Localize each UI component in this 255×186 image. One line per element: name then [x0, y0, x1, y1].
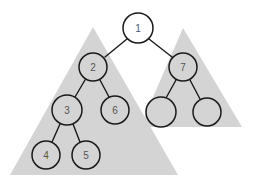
edge-n1-n7 [149, 39, 172, 57]
node-label: 7 [180, 62, 186, 73]
edge-n1-n2 [105, 39, 127, 57]
tree-node-1: 1 [123, 13, 153, 43]
node-label: 1 [135, 23, 141, 34]
node-label: 5 [83, 150, 89, 161]
tree-node-6: 6 [101, 96, 129, 124]
tree-node-4: 4 [32, 141, 60, 169]
tree-node-n7b [193, 98, 221, 126]
node-label: 4 [43, 150, 49, 161]
node-label: 6 [112, 105, 118, 116]
node-label: 3 [64, 105, 70, 116]
node-circle [146, 97, 176, 127]
node-label: 2 [90, 62, 96, 73]
tree-node-n7a [146, 97, 176, 127]
node-circle [193, 98, 221, 126]
tree-diagram: 1273645 [0, 0, 255, 186]
tree-node-2: 2 [79, 53, 107, 81]
tree-node-3: 3 [52, 95, 82, 125]
tree-node-7: 7 [169, 53, 197, 81]
tree-node-5: 5 [72, 141, 100, 169]
